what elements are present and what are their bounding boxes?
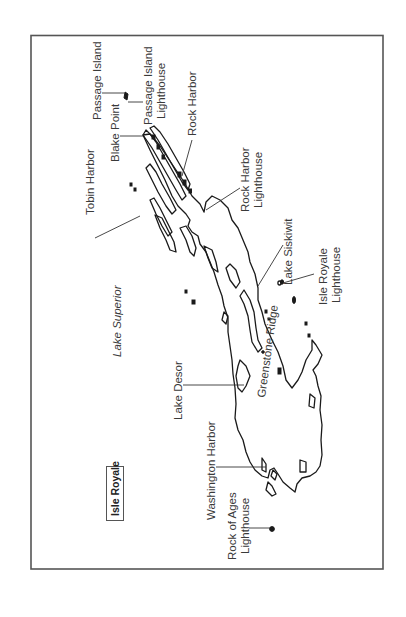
label-isle-royale-lighthouse: Isle Royale Lighthouse [317,245,342,305]
rock-of-ages-point [270,527,275,532]
label-lake-superior: Lake Superior [111,284,123,357]
label-tobin-harbor: Tobin Harbor [84,149,96,215]
label-rock-harbor-lighthouse: Rock Harbor Lighthouse [239,144,264,212]
label-rock-harbor: Rock Harbor [186,71,198,136]
label-blake-point: Blake Point [109,103,121,162]
label-lake-desor: Lake Desor [172,361,184,420]
isle-royale-map: Passage Island Passage Island Lighthouse… [0,0,406,617]
map-title-box: Isle Royale [107,461,124,521]
label-passage-island: Passage Island [91,41,103,120]
map-title: Isle Royale [109,461,121,516]
label-rock-of-ages-lighthouse: Rock of Ages Lighthouse [226,489,251,560]
label-washington-harbor: Washington Harbor [205,421,217,520]
label-lake-siskiwit: Lake Siskiwit [282,218,294,285]
